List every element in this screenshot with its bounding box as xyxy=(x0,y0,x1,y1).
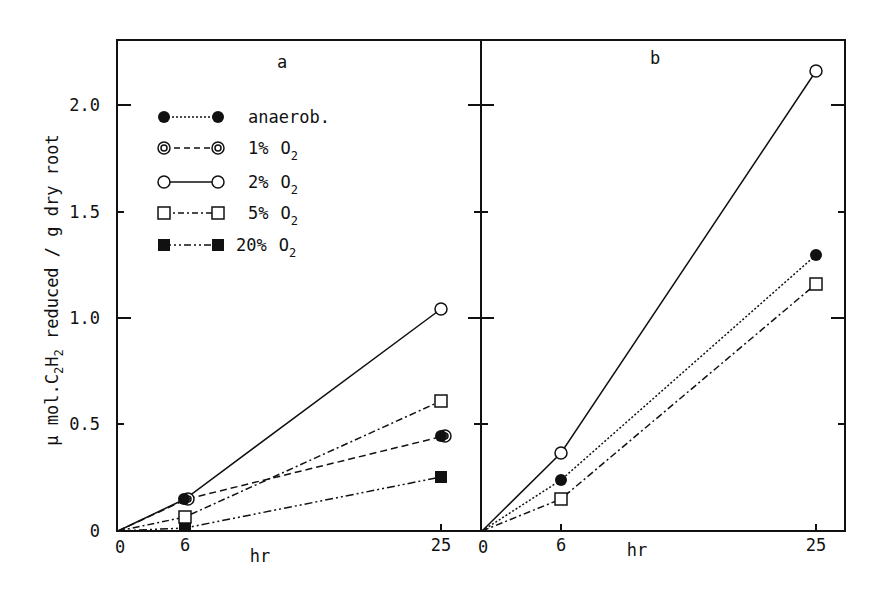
xtick-a-0: 0 xyxy=(115,537,125,557)
filled-square-icon xyxy=(435,471,447,483)
legend-20pct: 20%O2 xyxy=(236,235,296,260)
filled-circle-icon xyxy=(158,111,170,123)
panel-b-title: b xyxy=(650,48,660,68)
filled-square-icon xyxy=(158,239,170,251)
legend-1pct: 1%O2 xyxy=(248,138,298,163)
series-a-20pct xyxy=(118,477,441,531)
ytick-2-0: 2.0 xyxy=(69,95,100,115)
xtick-a-25: 25 xyxy=(431,535,451,555)
series-a-1pct xyxy=(118,436,444,531)
chart-figure: 0 0.5 1.0 1.5 2.0 0 6 25 0 6 25 hr hr µ … xyxy=(0,0,879,590)
y-ticks-right xyxy=(831,105,845,424)
open-circle-icon xyxy=(158,176,170,188)
filled-circle-icon xyxy=(212,111,224,123)
xtick-a-6: 6 xyxy=(180,535,190,555)
series-a-5pct xyxy=(118,401,441,531)
filled-circle-icon xyxy=(178,493,190,505)
open-square-icon xyxy=(179,511,191,523)
open-square-icon xyxy=(212,207,224,219)
open-circle-icon xyxy=(435,303,447,315)
filled-circle-icon xyxy=(555,474,567,486)
x-axis-label-a: hr xyxy=(250,546,270,566)
legend-anaerob: anaerob. xyxy=(248,107,330,127)
double-circle-icon xyxy=(212,142,224,154)
panel-b-series xyxy=(482,65,822,531)
filled-circle-icon xyxy=(810,249,822,261)
filled-square-icon xyxy=(179,523,191,531)
y-axis-label: µ mol.C2H2 reduced / g dry root xyxy=(42,134,66,445)
ytick-0: 0 xyxy=(90,521,100,541)
xtick-b-0: 0 xyxy=(478,537,488,557)
ytick-1-0: 1.0 xyxy=(69,308,100,328)
ytick-0-5: 0.5 xyxy=(69,414,100,434)
double-circle-icon xyxy=(158,142,170,154)
xtick-b-6: 6 xyxy=(556,535,566,555)
series-b-2pct xyxy=(482,71,816,531)
panel-a-title: a xyxy=(277,52,287,72)
x-axis-label-b: hr xyxy=(627,540,647,560)
open-square-icon xyxy=(810,278,822,290)
xtick-b-25: 25 xyxy=(806,535,826,555)
series-b-anaerob xyxy=(482,255,816,531)
open-square-icon xyxy=(555,493,567,505)
open-circle-icon xyxy=(810,65,822,77)
filled-circle-icon xyxy=(435,430,447,442)
y-ticks-left xyxy=(117,105,131,424)
legend-5pct: 5%O2 xyxy=(248,203,298,228)
filled-square-icon xyxy=(212,239,224,251)
series-a-2pct xyxy=(118,309,441,531)
ytick-1-5: 1.5 xyxy=(69,202,100,222)
open-circle-icon xyxy=(212,176,224,188)
panel-a-series xyxy=(118,303,451,531)
legend-2pct: 2%O2 xyxy=(248,172,298,197)
x-ticks xyxy=(185,524,816,531)
open-circle-icon xyxy=(555,447,567,459)
open-square-icon xyxy=(435,395,447,407)
legend: anaerob. 1%O2 2%O2 5%O2 20%O2 xyxy=(158,107,330,260)
open-square-icon xyxy=(158,207,170,219)
